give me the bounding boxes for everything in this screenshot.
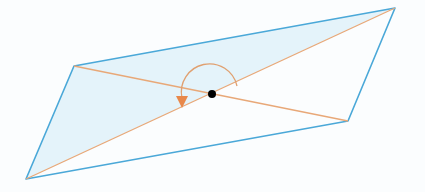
center-point xyxy=(208,90,216,98)
parallelogram-diagram xyxy=(0,0,425,192)
